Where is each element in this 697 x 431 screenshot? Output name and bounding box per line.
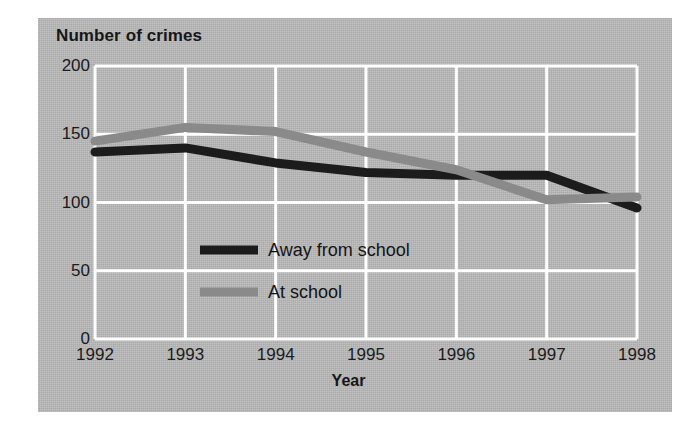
y-tick-label: 150 bbox=[62, 124, 90, 144]
x-tick-label: 1994 bbox=[257, 345, 295, 365]
legend-label-away-from-school: Away from school bbox=[268, 240, 410, 261]
x-axis-tick-labels: 1992 1993 1994 1995 1996 1997 1998 bbox=[95, 345, 637, 369]
chart-figure: Number of crimes 200 150 100 50 0 1992 1… bbox=[0, 0, 697, 431]
x-tick-label: 1992 bbox=[76, 345, 114, 365]
x-tick-label: 1995 bbox=[347, 345, 385, 365]
y-tick-label: 100 bbox=[62, 193, 90, 213]
y-axis-tick-labels: 200 150 100 50 0 bbox=[40, 66, 90, 339]
x-tick-label: 1996 bbox=[437, 345, 475, 365]
x-axis-title: Year bbox=[0, 372, 697, 390]
legend-label-at-school: At school bbox=[268, 282, 342, 303]
x-tick-label: 1997 bbox=[528, 345, 566, 365]
x-tick-label: 1998 bbox=[618, 345, 656, 365]
y-tick-label: 50 bbox=[71, 261, 90, 281]
y-tick-label: 200 bbox=[62, 56, 90, 76]
x-tick-label: 1993 bbox=[166, 345, 204, 365]
